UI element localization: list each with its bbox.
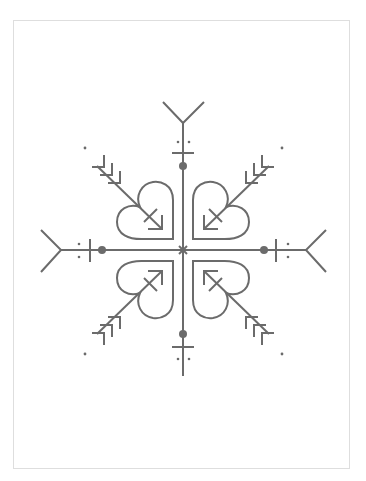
heart-arrow-top-right [193, 155, 274, 239]
main-axes [61, 123, 306, 376]
snowflake-artwork [0, 0, 366, 481]
heart-arrow-bottom-left [92, 261, 173, 345]
heart-arrow-top-left [92, 155, 173, 239]
heart-arrow-bottom-right [193, 261, 274, 345]
